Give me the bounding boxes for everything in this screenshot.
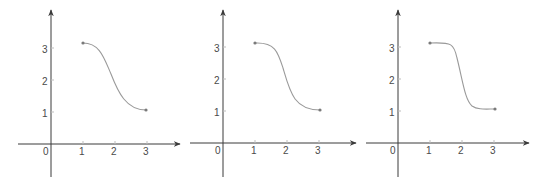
- chart-2: 0 1 2 3 1 2 3: [190, 10, 356, 177]
- y-label-1: 1: [42, 108, 48, 119]
- x-label-3: 3: [490, 145, 496, 156]
- x-label-3: 3: [315, 145, 321, 156]
- x-label-2: 2: [283, 145, 289, 156]
- x-label-1: 1: [426, 145, 432, 156]
- curve: [430, 43, 495, 109]
- x-label-1: 1: [79, 146, 85, 157]
- start-point: [81, 41, 84, 44]
- curve: [83, 43, 146, 110]
- y-label-1: 1: [214, 107, 220, 118]
- start-point: [253, 41, 256, 44]
- chart-3: 0 1 2 3 1 2 3: [366, 10, 529, 177]
- end-point: [144, 108, 147, 111]
- y-label-1: 1: [389, 107, 395, 118]
- x-label-0: 0: [43, 146, 49, 157]
- x-label-3: 3: [143, 146, 149, 157]
- x-label-0: 0: [215, 145, 221, 156]
- start-point: [428, 41, 431, 44]
- y-label-2: 2: [389, 75, 395, 86]
- y-label-3: 3: [389, 43, 395, 54]
- x-label-2: 2: [111, 146, 117, 157]
- chart-1: 0 1 2 3 1 2 3: [18, 10, 180, 177]
- end-point: [493, 107, 496, 110]
- x-label-2: 2: [458, 145, 464, 156]
- y-label-2: 2: [42, 76, 48, 87]
- curve: [255, 43, 320, 110]
- end-point: [318, 108, 321, 111]
- y-label-2: 2: [214, 75, 220, 86]
- three-sigmoid-plots: 0 1 2 3 1 2 3 0 1 2 3 1 2 3: [0, 0, 546, 183]
- x-label-0: 0: [390, 145, 396, 156]
- y-label-3: 3: [42, 44, 48, 55]
- x-label-1: 1: [251, 145, 257, 156]
- y-label-3: 3: [214, 43, 220, 54]
